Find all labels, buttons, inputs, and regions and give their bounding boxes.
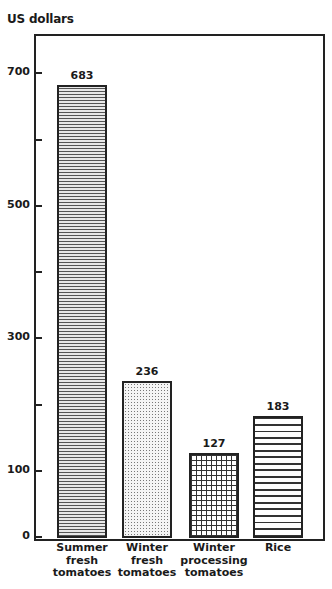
value-label-rice: 183 — [248, 400, 308, 413]
category-label-line: Winter — [109, 542, 185, 555]
value-label-summer-fresh-tomatoes: 683 — [52, 69, 112, 82]
y-tick-label: 100 — [2, 463, 30, 476]
y-tick-label: 0 — [2, 529, 30, 542]
y-tick-700 — [36, 72, 42, 74]
y-tick-label: 300 — [2, 330, 30, 343]
y-tick-200 — [36, 404, 42, 406]
value-label-winter-fresh-tomatoes: 236 — [117, 365, 177, 378]
y-tick-100 — [36, 470, 42, 472]
category-label-line: tomatoes — [109, 567, 185, 580]
bar-winter-processing-tomatoes — [189, 453, 239, 538]
y-tick-0 — [36, 536, 42, 538]
y-tick-300 — [36, 337, 42, 339]
category-label-line: Rice — [240, 542, 316, 555]
category-label-rice: Rice — [240, 542, 316, 555]
y-tick-label: 500 — [2, 198, 30, 211]
category-label-winter-fresh-tomatoes: Winterfreshtomatoes — [109, 542, 185, 580]
y-axis-title: US dollars — [7, 12, 74, 26]
y-tick-600 — [36, 139, 42, 141]
bar-summer-fresh-tomatoes — [57, 85, 107, 538]
y-tick-400 — [36, 271, 42, 273]
y-tick-500 — [36, 205, 42, 207]
bar-winter-fresh-tomatoes — [122, 381, 172, 538]
y-tick-label: 700 — [2, 65, 30, 78]
bar-rice — [253, 416, 303, 538]
category-label-line: tomatoes — [176, 567, 252, 580]
value-label-winter-processing-tomatoes: 127 — [184, 437, 244, 450]
